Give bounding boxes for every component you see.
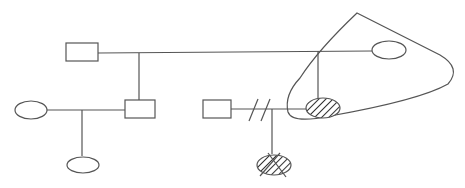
pedigree-svg — [0, 0, 465, 188]
pedigree-diagram — [0, 0, 465, 188]
individual-d-circle[interactable] — [15, 101, 47, 119]
individual-e-circle[interactable] — [67, 157, 99, 173]
individual-b-circle[interactable] — [372, 41, 406, 59]
individual-a-square[interactable] — [66, 43, 98, 61]
individual-f-square[interactable] — [203, 100, 231, 118]
separation-slash-2 — [261, 99, 270, 121]
individual-c-square[interactable] — [125, 100, 155, 118]
marriage-line-a-b — [98, 51, 372, 53]
individual-h-affected-circle[interactable] — [306, 98, 340, 118]
individual-g-affected-deceased-circle[interactable] — [257, 155, 291, 175]
separation-slash-1 — [249, 99, 258, 121]
